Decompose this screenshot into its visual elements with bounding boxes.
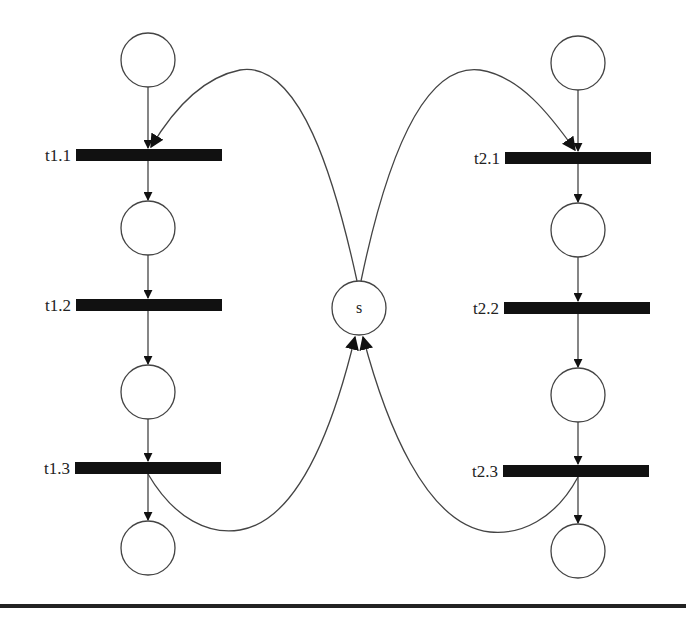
place-p2-3 [551,368,605,422]
transition-t2.2 [504,302,650,314]
petri-net-diagram: s t1.1 t1.2 t1.3 t2.1 t2.2 t2.3 [0,0,686,617]
transition-label-t2.3: t2.3 [472,462,498,481]
transition-t1.1 [76,149,222,161]
transition-t2.3 [503,465,649,477]
place-p2-4 [551,524,605,578]
place-p1-3 [121,365,175,419]
arc-s-to-t2.1 [361,70,575,281]
transition-t1.3 [75,462,221,474]
transition-t2.1 [505,152,651,164]
transition-label-t1.3: t1.3 [44,459,70,478]
transition-label-t1.1: t1.1 [45,146,71,165]
bottom-rule [0,604,686,608]
place-p1-4 [121,521,175,575]
transition-label-t1.2: t1.2 [45,296,71,315]
transition-t1.2 [76,299,222,311]
arc-s-to-t1.1 [151,69,357,281]
arc-t1.3-to-s [148,337,355,531]
transition-label-t2.2: t2.2 [473,299,499,318]
place-p2-1 [551,36,605,90]
process-2-transitions [503,152,651,477]
place-p2-2 [551,203,605,257]
transition-label-t2.1: t2.1 [474,149,500,168]
arc-t2.3-to-s [363,337,578,532]
place-s-label: s [356,299,362,316]
place-p1-2 [121,201,175,255]
place-p1-1 [121,33,175,87]
